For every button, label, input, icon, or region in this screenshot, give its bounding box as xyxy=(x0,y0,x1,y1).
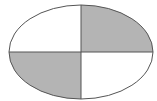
quadrant-bottom-left xyxy=(0,52,81,101)
quadrant-bottom-right xyxy=(81,52,157,101)
quadrant-top-left xyxy=(0,0,81,52)
quadrant-ellipse-diagram xyxy=(0,0,157,101)
quadrant-top-right xyxy=(81,0,157,52)
